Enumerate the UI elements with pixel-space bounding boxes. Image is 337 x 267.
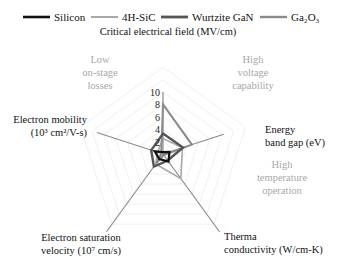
legend-label: 4H-SiC [122, 11, 156, 23]
axis-label: Critical electrical field (MV/cm) [100, 26, 237, 38]
legend-label: Ga₂O₃ [291, 11, 320, 23]
axis-label: Energy [265, 124, 296, 135]
annotation-text: losses [87, 80, 112, 91]
annotation-text: operation [262, 185, 302, 196]
tick-labels: 246810 [150, 87, 160, 148]
annotation-text: High [243, 54, 265, 65]
tick-label: 8 [155, 99, 160, 110]
axis-label: Electron saturation [41, 232, 121, 243]
axis-label: conductivity (W/cm-K) [224, 244, 323, 256]
axes [97, 92, 224, 232]
radar-chart: Silicon4H-SiCWurtzite GaNGa₂O₃ 246810 Cr… [0, 0, 337, 267]
tick-label: 2 [155, 137, 160, 148]
tick-label: 6 [155, 112, 160, 123]
axis-label: Electron mobility [13, 114, 88, 125]
tick-label: 10 [150, 87, 160, 98]
legend: Silicon4H-SiCWurtzite GaNGa₂O₃ [23, 11, 320, 23]
annotation-text: temperature [257, 172, 307, 183]
legend-label: Wurtzite GaN [192, 11, 254, 23]
annotation-text: voltage [238, 67, 269, 78]
legend-label: Silicon [54, 11, 86, 23]
annotation-text: on-stage [82, 67, 118, 78]
axis-label: Therma [224, 231, 257, 242]
axis-label: band gap (eV) [265, 137, 326, 149]
annotation-text: High [272, 159, 294, 170]
annotation-text: capability [232, 80, 274, 91]
axis-label: (10³ cm²/V-s) [31, 127, 88, 139]
tick-label: 4 [155, 124, 160, 135]
axis-label: velocity (10⁷ cm/s) [41, 245, 122, 257]
annotation-text: Low [90, 54, 110, 65]
